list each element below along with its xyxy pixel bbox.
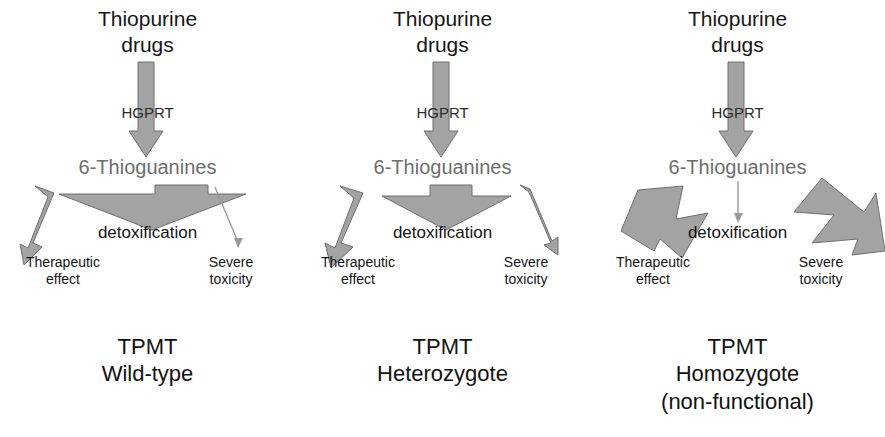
metabolite-label: 6-Thioguanines xyxy=(0,155,295,179)
therapeutic-effect-label: Therapeutic effect xyxy=(8,254,118,288)
drug-label: Thiopurine drugs xyxy=(295,6,590,57)
severe-toxicity-label: Severe toxicity xyxy=(766,254,876,288)
panel-heterozygote: Thiopurine drugs HGPRT 6-Thioguanines de… xyxy=(295,0,590,437)
drug-label: Thiopurine drugs xyxy=(0,6,295,57)
detoxification-arrow-head xyxy=(734,213,743,223)
enzyme-label: HGPRT xyxy=(295,104,590,122)
detoxification-label: detoxification xyxy=(590,223,885,244)
detoxification-label: detoxification xyxy=(295,223,590,244)
severe-toxicity-label: Severe toxicity xyxy=(471,254,581,288)
figure-canvas: Thiopurine drugs HGPRT 6-Thioguanines de… xyxy=(0,0,885,437)
panel-footer-wild-type: TPMT Wild-type xyxy=(0,333,295,388)
toxicity-arrow xyxy=(520,185,558,255)
panel-homozygote: Thiopurine drugs HGPRT 6-Thioguanines de… xyxy=(590,0,885,437)
metabolite-label: 6-Thioguanines xyxy=(295,155,590,179)
panel-footer-heterozygote: TPMT Heterozygote xyxy=(295,333,590,388)
enzyme-label: HGPRT xyxy=(590,104,885,122)
drug-label: Thiopurine drugs xyxy=(590,6,885,57)
enzyme-label: HGPRT xyxy=(0,104,295,122)
therapeutic-effect-label: Therapeutic effect xyxy=(598,254,708,288)
therapeutic-effect-label: Therapeutic effect xyxy=(303,254,413,288)
metabolite-label: 6-Thioguanines xyxy=(590,155,885,179)
detoxification-label: detoxification xyxy=(0,223,295,244)
therapeutic-arrow xyxy=(621,186,708,258)
panel-wild-type: Thiopurine drugs HGPRT 6-Thioguanines de… xyxy=(0,0,295,437)
severe-toxicity-label: Severe toxicity xyxy=(176,254,286,288)
panel-footer-homozygote: TPMT Homozygote (non-functional) xyxy=(590,333,885,415)
